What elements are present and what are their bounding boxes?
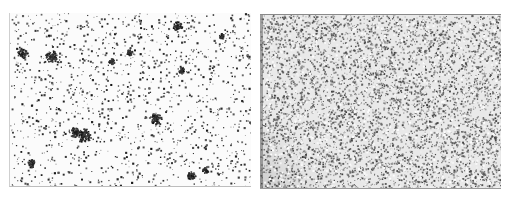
micrograph-left	[9, 13, 251, 187]
micrograph-right-canvas	[260, 15, 501, 188]
micrograph-left-canvas	[10, 13, 251, 186]
micrograph-right	[260, 14, 501, 189]
